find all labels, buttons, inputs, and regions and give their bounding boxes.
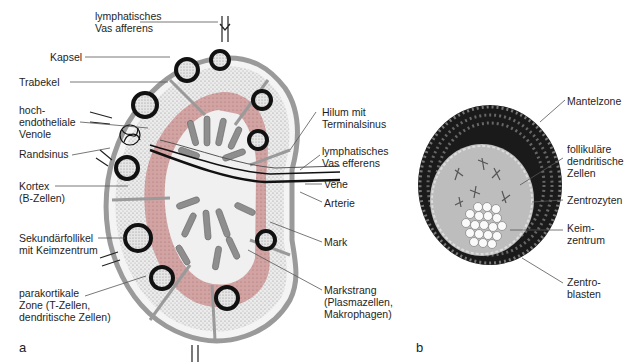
label-mark: Mark [324, 236, 347, 248]
label-fdc: follikuläredendritischeZellen [567, 143, 624, 179]
label-hilum: Hilum mitTerminalsinus [322, 106, 386, 130]
label-zentroblasten: Zentro-blasten [567, 276, 601, 300]
label-sekundaerfollikel: Sekundärfollikelmit Keimzentrum [19, 232, 98, 256]
label-kapsel: Kapsel [50, 51, 82, 63]
label-kortex: Kortex(B-Zellen) [19, 180, 65, 204]
lymph-follicle-diagram [418, 105, 562, 265]
label-keimzentrum: Keim-zentrum [567, 222, 605, 246]
label-randsinus: Randsinus [19, 148, 69, 160]
label-vas-afferens: lymphatischesVas afferens [95, 10, 162, 34]
label-vene: Vene [324, 178, 348, 190]
lymph-node-figure: lymphatischesVas afferens Kapsel Trabeke… [0, 0, 641, 363]
label-arterie: Arterie [324, 197, 355, 209]
panel-label-b: b [416, 340, 423, 355]
panel-label-a: a [19, 340, 26, 355]
label-trabekel: Trabekel [19, 76, 59, 88]
label-mantelzone: Mantelzone [567, 95, 621, 107]
label-hev: hoch-endothelialeVenole [19, 104, 76, 140]
label-parakortikal: parakortikaleZone (T-Zellen,dendritische… [19, 287, 111, 323]
label-vas-efferens: lymphatischesVas efferens [322, 145, 389, 169]
label-zentrozyten: Zentrozyten [567, 194, 622, 206]
label-markstrang: Markstrang(Plasmazellen,Makrophagen) [324, 284, 393, 320]
